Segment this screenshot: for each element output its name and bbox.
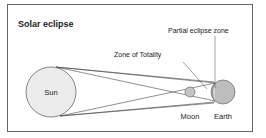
diagram-title: Solar eclipse	[18, 19, 74, 29]
partial-label: Partial eclipse zone	[168, 27, 229, 35]
earth-label: Earth	[214, 112, 232, 121]
moon-shape	[185, 87, 195, 97]
sun-label: Sun	[44, 88, 57, 97]
solar-eclipse-diagram: Solar eclipse Sun Moon Earth Zone of Tot…	[0, 0, 266, 138]
totality-label: Zone of Totality	[114, 51, 162, 59]
moon-label: Moon	[181, 112, 200, 121]
